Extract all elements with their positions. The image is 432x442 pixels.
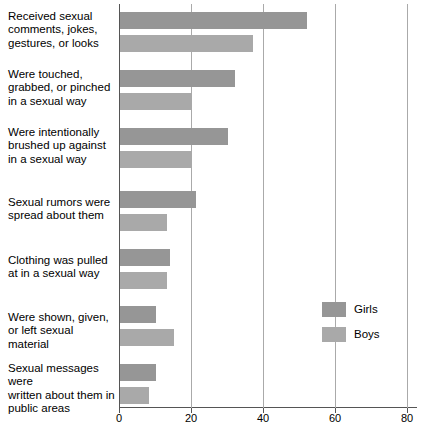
x-tick-label-20: 20	[185, 412, 197, 424]
bar-girls-2	[120, 128, 228, 145]
x-tick-label-60: 60	[329, 412, 341, 424]
category-label-line: Sexual rumors were	[8, 196, 116, 210]
category-label-line: gestures, or looks	[8, 37, 116, 51]
category-label-line: written about them in	[8, 389, 116, 403]
legend-label: Girls	[354, 303, 378, 315]
legend-item-boys[interactable]: Boys	[322, 325, 402, 343]
category-label-line: Clothing was pulled	[8, 254, 116, 268]
category-label-line: public areas	[8, 402, 116, 416]
category-label-line: Were intentionally	[8, 126, 116, 140]
category-label-1: Were touched,grabbed, or pinchedin a sex…	[8, 68, 116, 109]
category-label-line: brushed up against	[8, 139, 116, 153]
bar-girls-5	[120, 306, 156, 323]
bar-boys-0	[120, 35, 253, 52]
legend-swatch-girls	[322, 302, 346, 317]
gridline-40	[263, 4, 264, 408]
category-label-4: Clothing was pulledat in a sexual way	[8, 254, 116, 281]
bar-girls-0	[120, 12, 307, 29]
bar-girls-4	[120, 249, 170, 266]
legend-swatch-boys	[322, 327, 346, 342]
category-label-line: in a sexual way	[8, 153, 116, 167]
category-label-line: Sexual messages were	[8, 362, 116, 389]
x-tick-label-80: 80	[401, 412, 413, 424]
bar-boys-3	[120, 214, 167, 231]
category-label-line: Were touched,	[8, 68, 116, 82]
category-label-line: Were shown, given,	[8, 311, 116, 325]
category-label-line: or left sexual material	[8, 324, 116, 351]
bar-boys-6	[120, 387, 149, 404]
category-label-6: Sexual messages werewritten about them i…	[8, 362, 116, 416]
legend-label: Boys	[354, 328, 380, 340]
gridline-80	[407, 4, 408, 408]
bar-boys-4	[120, 272, 167, 289]
chart-legend: GirlsBoys	[322, 300, 402, 350]
x-axis-line	[119, 407, 417, 408]
category-label-5: Were shown, given,or left sexual materia…	[8, 311, 116, 352]
bar-chart: Received sexualcomments, jokes,gestures,…	[0, 0, 432, 442]
x-tick-label-0: 0	[116, 412, 122, 424]
category-label-3: Sexual rumors werespread about them	[8, 196, 116, 223]
bar-boys-2	[120, 151, 192, 168]
bar-girls-1	[120, 70, 235, 87]
category-label-2: Were intentionallybrushed up againstin a…	[8, 126, 116, 167]
bar-girls-3	[120, 191, 196, 208]
category-label-line: at in a sexual way	[8, 267, 116, 281]
category-label-0: Received sexualcomments, jokes,gestures,…	[8, 10, 116, 51]
x-tick-label-40: 40	[257, 412, 269, 424]
bar-boys-1	[120, 93, 192, 110]
category-label-line: spread about them	[8, 209, 116, 223]
category-label-line: in a sexual way	[8, 95, 116, 109]
category-label-line: Received sexual	[8, 10, 116, 24]
category-label-line: grabbed, or pinched	[8, 81, 116, 95]
bar-boys-5	[120, 329, 174, 346]
bar-girls-6	[120, 364, 156, 381]
category-label-line: comments, jokes,	[8, 23, 116, 37]
legend-item-girls[interactable]: Girls	[322, 300, 402, 318]
